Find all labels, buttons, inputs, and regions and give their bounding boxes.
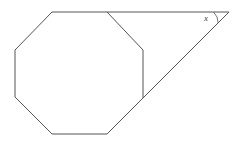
- octagon-shape: [15, 12, 143, 134]
- geometry-canvas: x: [0, 0, 240, 143]
- triangle-hypotenuse: [143, 12, 229, 98]
- geometry-figure: x: [0, 0, 240, 143]
- angle-x-label: x: [203, 13, 208, 23]
- angle-arc-icon: [214, 12, 219, 23]
